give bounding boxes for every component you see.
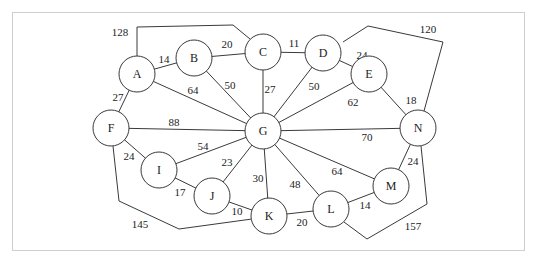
node-label: E <box>365 67 372 81</box>
node-label: J <box>210 189 215 203</box>
nodes-layer: ABCDEFGNIJKLM <box>93 34 436 234</box>
edge-weight-label: 14 <box>159 53 171 65</box>
edge-weight-label: 50 <box>309 80 321 92</box>
edge-weight-label: 18 <box>406 94 418 106</box>
edge-weight-label: 88 <box>169 116 181 128</box>
node-j: J <box>194 178 230 214</box>
edge-weight-label: 48 <box>290 178 302 190</box>
node-label: B <box>190 51 198 65</box>
edge-weight-label: 145 <box>132 218 149 230</box>
node-d: D <box>305 35 341 71</box>
node-k: K <box>251 198 287 234</box>
node-label: K <box>265 209 274 223</box>
edge-weight-label: 27 <box>265 83 277 95</box>
edge-g-n <box>263 128 418 131</box>
node-b: B <box>176 40 212 76</box>
edge-weight-label: 23 <box>222 156 234 168</box>
node-label: A <box>133 67 142 81</box>
edge-weight-label: 50 <box>225 79 237 91</box>
edge-weight-label: 64 <box>188 84 200 96</box>
node-m: M <box>373 168 409 204</box>
edge-weight-label: 11 <box>289 37 300 49</box>
edge-f-g <box>111 128 263 131</box>
edge-weight-label: 157 <box>405 220 422 232</box>
node-a: A <box>119 56 155 92</box>
edge-weight-label: 10 <box>232 205 244 217</box>
node-n: N <box>400 110 436 146</box>
node-label: D <box>319 46 328 60</box>
edge-a-g <box>137 74 263 131</box>
node-label: C <box>259 45 267 59</box>
edge-weight-label: 120 <box>420 23 437 35</box>
node-label: F <box>108 121 115 135</box>
weighted-graph-diagram: 1412820112412018276450275062887024145541… <box>0 0 537 260</box>
edge-weight-label: 128 <box>112 26 129 38</box>
edge-weight-label: 62 <box>348 96 359 108</box>
node-e: E <box>351 56 387 92</box>
node-f: F <box>93 110 129 146</box>
node-l: L <box>313 191 349 227</box>
edge-weight-label: 14 <box>360 199 372 211</box>
edge-weight-label: 70 <box>362 131 374 143</box>
edge-weight-label: 54 <box>198 140 210 152</box>
node-c: C <box>245 34 281 70</box>
node-label: N <box>414 121 423 135</box>
edge-weight-label: 24 <box>408 155 420 167</box>
node-g: G <box>245 113 281 149</box>
node-label: G <box>259 124 268 138</box>
edge-weight-label: 20 <box>222 38 234 50</box>
edge-weight-label: 24 <box>124 150 136 162</box>
edge-weight-label: 17 <box>175 186 187 198</box>
node-label: L <box>327 202 334 216</box>
edge-weight-label: 20 <box>297 216 309 228</box>
node-label: M <box>386 179 397 193</box>
edge-weight-label: 27 <box>113 91 125 103</box>
edge-weight-label: 64 <box>332 165 344 177</box>
node-label: I <box>157 163 161 177</box>
edge-weight-label: 30 <box>253 172 265 184</box>
node-i: I <box>141 152 177 188</box>
